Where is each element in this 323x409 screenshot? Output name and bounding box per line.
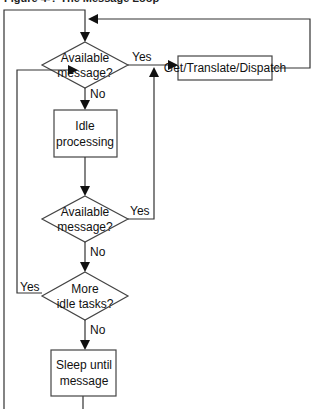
d3-yes-loop-connector bbox=[17, 70, 68, 293]
d2-yes-connector bbox=[128, 75, 154, 219]
d1-no-label: No bbox=[90, 87, 106, 101]
arrow-return-top bbox=[88, 14, 98, 24]
arrow-into-decision1 bbox=[80, 32, 90, 42]
decision2-line2: message? bbox=[57, 220, 113, 234]
decision-available-message-2 bbox=[42, 196, 128, 242]
sleep-line2: message bbox=[60, 374, 109, 388]
idle-line2: processing bbox=[56, 135, 114, 149]
d1-yes-label: Yes bbox=[132, 50, 152, 64]
d3-yes-label: Yes bbox=[20, 280, 40, 294]
decision-available-message-1 bbox=[42, 42, 128, 88]
idle-line1: Idle bbox=[75, 119, 95, 133]
arrow-into-decision3 bbox=[80, 262, 90, 272]
dispatch-label: Get/Translate/Dispatch bbox=[164, 61, 286, 75]
arrow-into-idle bbox=[80, 100, 90, 110]
d2-yes-label: Yes bbox=[130, 204, 150, 218]
d3-no-label: No bbox=[90, 323, 106, 337]
decision3-line1: More bbox=[71, 282, 99, 296]
arrow-into-decision2 bbox=[80, 186, 90, 196]
process-sleep-until-message bbox=[51, 350, 116, 396]
process-idle-processing bbox=[54, 110, 117, 157]
decision3-line2: idle tasks? bbox=[57, 297, 114, 311]
decision-more-idle-tasks bbox=[42, 272, 128, 320]
arrow-up-to-dispatch-line bbox=[149, 67, 159, 77]
d2-no-label: No bbox=[90, 245, 106, 259]
decision1-line1: Available bbox=[61, 51, 110, 65]
arrow-into-sleep bbox=[80, 340, 90, 350]
sleep-line1: Sleep until bbox=[56, 358, 112, 372]
flowchart: Available message? Yes Get/Translate/Dis… bbox=[0, 0, 323, 409]
decision1-line2: message? bbox=[57, 66, 113, 80]
decision2-line1: Available bbox=[61, 205, 110, 219]
